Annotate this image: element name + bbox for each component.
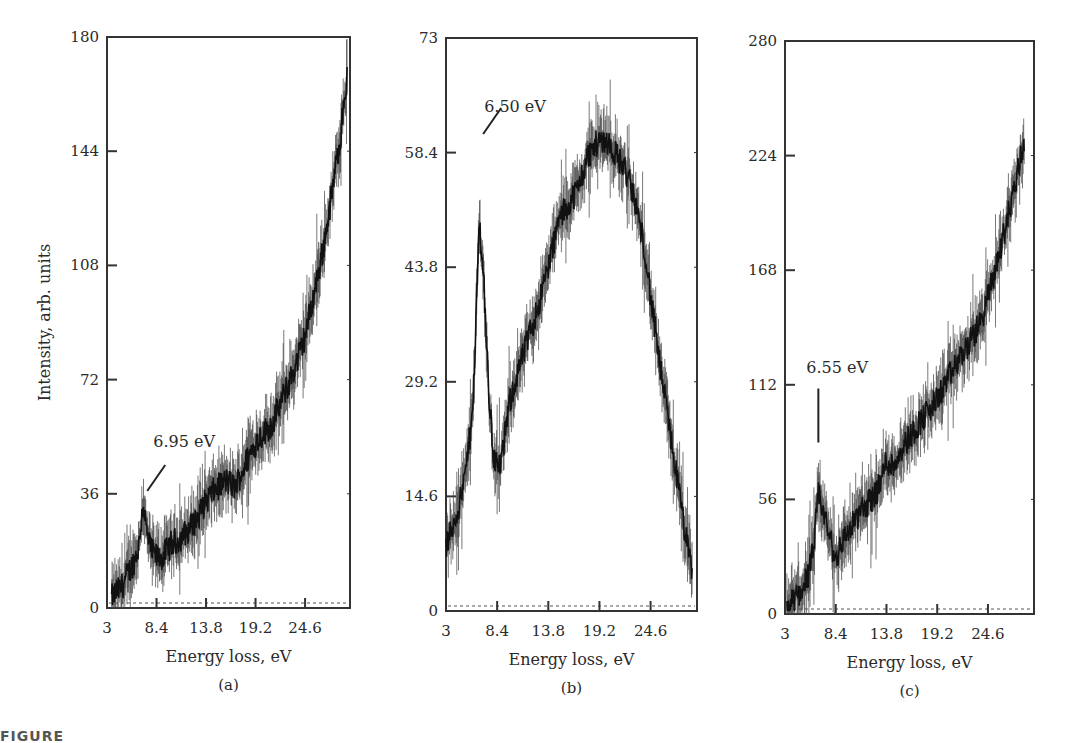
x-tick-label: 13.8	[189, 619, 222, 637]
x-tick-label: 3	[441, 622, 451, 640]
x-tick-label: 8.4	[824, 625, 848, 643]
y-tick-label: 108	[70, 256, 99, 274]
y-tick-label: 280	[748, 32, 777, 50]
panel-label: (c)	[899, 682, 919, 700]
y-tick-label: 43.8	[405, 258, 438, 276]
x-tick-label: 19.2	[239, 619, 272, 637]
x-tick-label: 8.4	[145, 619, 169, 637]
y-tick-label: 224	[748, 147, 777, 165]
figure: 0367210814418038.413.819.224.6Energy los…	[0, 0, 1068, 743]
chart-panel-c: 05611216822428038.413.819.224.6Energy lo…	[748, 32, 1034, 700]
y-tick-label: 73	[419, 29, 438, 47]
y-tick-label: 14.6	[405, 487, 438, 505]
panel-label: (b)	[561, 679, 582, 697]
y-tick-label: 0	[428, 602, 438, 620]
y-tick-label: 29.2	[405, 373, 438, 391]
x-axis-title: Energy loss, eV	[847, 653, 973, 672]
x-tick-label: 8.4	[485, 622, 509, 640]
x-tick-label: 19.2	[921, 625, 954, 643]
y-axis-title: Intensity, arb. units	[35, 244, 54, 402]
x-tick-label: 19.2	[583, 622, 616, 640]
plot-frame	[446, 38, 697, 611]
annotation-label: 6.55 eV	[806, 358, 868, 377]
y-tick-label: 180	[70, 28, 99, 46]
y-tick-label: 72	[80, 371, 99, 389]
y-tick-label: 112	[748, 376, 777, 394]
data-error-bars	[112, 39, 348, 608]
chart-panel-a: 0367210814418038.413.819.224.6Energy los…	[35, 28, 350, 694]
y-tick-label: 58.4	[405, 144, 438, 162]
x-tick-label: 24.6	[288, 619, 321, 637]
x-tick-label: 3	[780, 625, 790, 643]
y-tick-label: 0	[767, 605, 777, 623]
panel-label: (a)	[218, 676, 239, 694]
data-series-line	[112, 67, 348, 605]
x-tick-label: 3	[102, 619, 112, 637]
chart-panel-b: 014.629.243.858.47338.413.819.224.6Energ…	[405, 29, 697, 697]
y-tick-label: 168	[748, 261, 777, 279]
x-tick-label: 24.6	[971, 625, 1004, 643]
y-tick-label: 56	[758, 490, 777, 508]
x-axis-title: Energy loss, eV	[166, 647, 292, 666]
annotation-pointer	[147, 465, 165, 491]
data-error-bars	[446, 80, 692, 598]
x-axis-title: Energy loss, eV	[509, 650, 635, 669]
y-tick-label: 36	[80, 485, 99, 503]
annotation-label: 6.50 eV	[484, 97, 546, 116]
figure-caption-fragment: FIGURE	[0, 728, 64, 743]
x-tick-label: 24.6	[634, 622, 667, 640]
x-tick-label: 13.8	[870, 625, 903, 643]
x-tick-label: 13.8	[532, 622, 565, 640]
y-tick-label: 144	[70, 142, 99, 160]
y-tick-label: 0	[89, 599, 99, 617]
annotation-label: 6.95 eV	[153, 432, 215, 451]
figure-svg: 0367210814418038.413.819.224.6Energy los…	[0, 0, 1068, 743]
